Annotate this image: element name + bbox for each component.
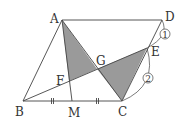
label-A: A bbox=[49, 12, 59, 26]
svg-text:2: 2 bbox=[145, 74, 151, 84]
label-D: D bbox=[165, 10, 175, 24]
ratio-mark-2: 2 bbox=[143, 73, 153, 84]
geometry-diagram: 1 2 A D E G F B M C bbox=[0, 0, 183, 125]
svg-text:1: 1 bbox=[162, 30, 168, 40]
label-E: E bbox=[151, 45, 160, 59]
label-B: B bbox=[15, 105, 24, 119]
ratio-mark-1: 1 bbox=[160, 29, 170, 40]
side-AB bbox=[23, 20, 62, 101]
label-C: C bbox=[118, 105, 127, 119]
label-F: F bbox=[56, 74, 64, 88]
label-M: M bbox=[68, 106, 80, 120]
label-G: G bbox=[96, 54, 106, 68]
